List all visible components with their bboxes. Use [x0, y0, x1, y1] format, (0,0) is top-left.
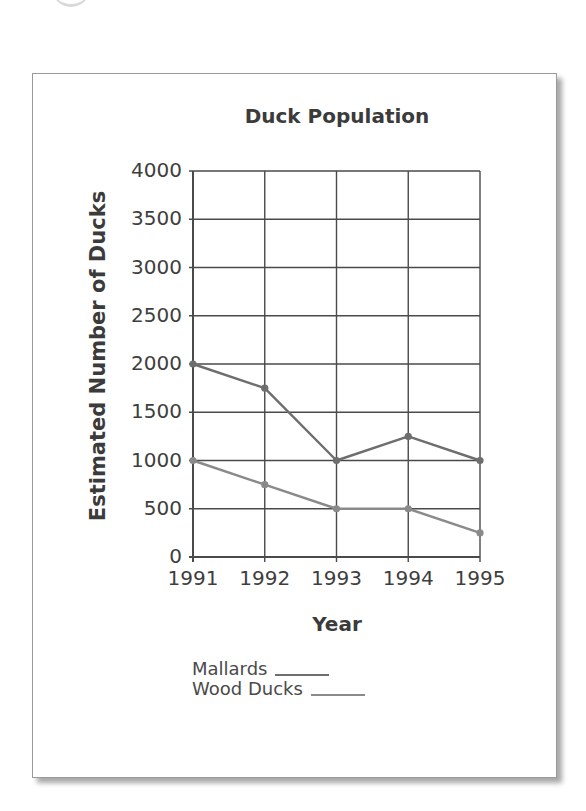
data-point: [261, 385, 268, 392]
legend-swatch-mallards: [275, 674, 329, 676]
legend-item-mallards: Mallards: [192, 659, 365, 679]
legend-label-mallards: Mallards: [192, 659, 267, 679]
data-point: [333, 505, 340, 512]
legend: Mallards Wood Ducks: [192, 659, 365, 699]
data-point: [476, 457, 483, 464]
data-point: [189, 457, 196, 464]
data-point: [405, 505, 412, 512]
data-point: [189, 360, 196, 367]
data-point: [405, 433, 412, 440]
legend-swatch-wood-ducks: [311, 694, 365, 696]
data-point: [476, 529, 483, 536]
legend-label-wood-ducks: Wood Ducks: [192, 679, 303, 699]
legend-item-wood-ducks: Wood Ducks: [192, 679, 365, 699]
data-point: [333, 457, 340, 464]
data-point: [261, 481, 268, 488]
